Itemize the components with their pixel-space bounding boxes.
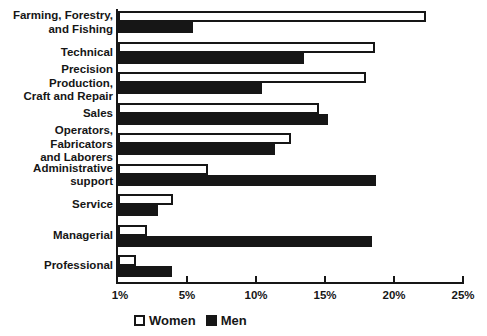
women-bar [118,11,426,22]
legend-swatch-women [134,315,145,326]
legend-swatch-men [206,315,217,326]
category-label: Service [1,198,113,212]
x-tick [393,276,395,282]
occupation-bar-chart: Farming, Forestry, and FishingTechnicalP… [0,0,487,336]
legend-label: Men [221,313,247,328]
men-bar [118,205,158,216]
category-label: Operators, Fabricators and Laborers [1,124,113,165]
men-bar [118,175,376,186]
x-axis-line [116,282,464,284]
women-bar [118,133,291,144]
x-tick-label: 10% [244,289,267,301]
category-label: Administrative support [1,161,113,188]
x-tick-label: 25% [451,289,474,301]
men-bar [118,266,172,277]
women-bar [118,103,319,114]
x-tick-label: 5% [179,289,196,301]
men-bar [118,144,275,155]
x-tick-label: 1% [112,289,129,301]
women-bar [118,194,173,205]
category-label: Sales [1,107,113,121]
category-label: Farming, Forestry, and Fishing [1,9,113,36]
category-label: Precision Production, Craft and Repair [1,63,113,104]
category-label: Technical [1,46,113,60]
legend-label: Women [149,313,196,328]
men-bar [118,114,328,125]
men-bar [118,53,304,64]
men-bar [118,83,262,94]
x-tick [255,276,257,282]
y-axis-line [116,9,118,284]
x-tick-label: 20% [382,289,405,301]
women-bar [118,225,147,236]
x-tick-label: 15% [313,289,336,301]
x-tick [324,276,326,282]
men-bar [118,236,372,247]
women-bar [118,72,366,83]
category-label: Professional [1,259,113,273]
x-tick [186,276,188,282]
x-tick [462,276,464,282]
men-bar [118,22,193,33]
women-bar [118,255,136,266]
women-bar [118,164,208,175]
women-bar [118,42,375,53]
category-label: Managerial [1,229,113,243]
legend-entry-men: Men [206,313,247,328]
legend: WomenMen [134,313,247,328]
legend-entry-women: Women [134,313,196,328]
